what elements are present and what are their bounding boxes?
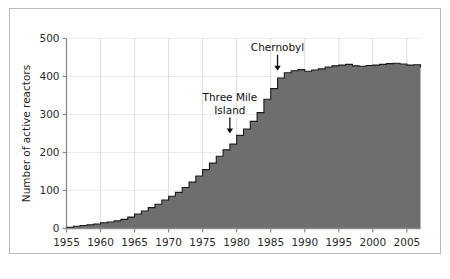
y-axis-title: Number of active reactors	[20, 65, 32, 202]
annotation-label: Island	[214, 104, 245, 116]
down-arrow-icon	[227, 129, 233, 134]
x-tick-label: 1985	[257, 236, 284, 248]
area-fill	[67, 63, 421, 228]
x-tick-label: 2005	[394, 236, 421, 248]
y-tick-label: 200	[39, 146, 59, 158]
x-tick-label: 1975	[189, 236, 216, 248]
y-axis-title-text: Number of active reactors	[20, 65, 32, 202]
y-tick-labels: 0100200300400500	[39, 32, 59, 234]
y-tick-label: 0	[53, 222, 60, 234]
y-tick-label: 100	[39, 184, 59, 196]
x-tick-labels: 1955196019651970197519801985199019952000…	[53, 236, 420, 248]
annotation-label: Chernobyl	[251, 41, 304, 53]
x-tick-label: 1970	[155, 236, 182, 248]
x-tick-label: 1965	[121, 236, 148, 248]
x-tick-label: 2000	[359, 236, 386, 248]
annotation-chernobyl: Chernobyl	[251, 41, 304, 71]
reactor-count-chart: 1955196019651970197519801985199019952000…	[0, 0, 450, 279]
y-tick-label: 500	[39, 32, 59, 44]
x-tick-label: 1990	[291, 236, 318, 248]
y-tick-label: 300	[39, 108, 59, 120]
figure-container: 1955196019651970197519801985199019952000…	[0, 0, 450, 279]
x-tick-label: 1955	[53, 236, 80, 248]
down-arrow-icon	[274, 66, 280, 71]
annotation-label: Three Mile	[201, 91, 257, 103]
annotation-three-mile-island: Three MileIsland	[201, 91, 257, 134]
x-tick-label: 1995	[325, 236, 352, 248]
x-tick-label: 1980	[223, 236, 250, 248]
x-tick-label: 1960	[87, 236, 114, 248]
data-series-area	[67, 63, 421, 228]
y-tick-label: 400	[39, 70, 59, 82]
